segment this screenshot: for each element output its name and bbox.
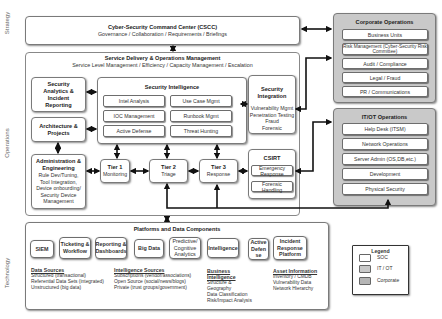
security-integration-title: Security Integration	[249, 86, 295, 100]
platform-big-data[interactable]: Big Data	[134, 239, 164, 258]
architecture-label: Architecture & Projects	[32, 123, 85, 137]
strategy-label: Strategy	[4, 0, 10, 53]
legend-swatch-corporate	[359, 277, 371, 285]
platform-incident-response[interactable]: Incident Response Platform	[273, 236, 307, 260]
platform-reporting[interactable]: Reporting & Dashboards	[95, 237, 127, 259]
tier-2-box[interactable]: Tier 2 Triage	[149, 159, 188, 183]
emergency-response[interactable]: Emergency Response	[251, 165, 293, 176]
tier-1-title: Tier 1	[108, 164, 123, 171]
corporate-operations-title: Corporate Operations	[334, 19, 435, 26]
threat-hunting[interactable]: Threat Hunting	[170, 125, 232, 137]
network-operations[interactable]: Network Operations	[342, 138, 428, 150]
vulnerability-mgmt: Vulnerability Mgmt	[249, 105, 295, 112]
help-desk[interactable]: Help Desk (ITSM)	[342, 123, 428, 135]
tier-1-sub: Monitoring	[103, 171, 127, 178]
info-heading: Business Intelligence	[207, 268, 255, 280]
risk-management[interactable]: Risk Management (Cyber-Security Risk Com…	[342, 43, 428, 55]
operations-label: Operations	[4, 113, 10, 173]
it-ot-operations-title: IT/OT Operations	[334, 114, 435, 121]
pr-communications[interactable]: PR / Communications	[342, 86, 428, 97]
security-integration-box[interactable]: Security Integration Vulnerability Mgmt …	[248, 75, 296, 134]
legend-swatch-it-ot	[359, 265, 371, 273]
audit-compliance[interactable]: Audit / Compliance	[342, 58, 428, 69]
platform-siem[interactable]: SIEM	[30, 240, 54, 258]
business-units[interactable]: Business Units	[342, 29, 428, 40]
forensic: Forensic	[249, 125, 295, 132]
tier-3-title: Tier 3	[211, 164, 226, 171]
info-business-intelligence: Business Intelligence Structure & Geogra…	[207, 268, 255, 304]
architecture-box[interactable]: Architecture & Projects	[31, 117, 86, 142]
admin-engineering-title: Administration & Engineering	[32, 158, 85, 172]
physical-security[interactable]: Physical Security	[342, 183, 428, 195]
sdom-title: Service Delivery & Operations Management	[25, 55, 300, 62]
info-line: Structure & Geography	[207, 280, 255, 292]
security-intelligence-title: Security Intelligence	[98, 84, 246, 91]
platform-ticketing[interactable]: Ticketing & Workflow	[59, 237, 91, 259]
platform-predictive[interactable]: Predictive/ Cognitive Analytics	[169, 237, 201, 259]
legend-label-it-ot: IT / OT	[377, 265, 392, 271]
fraud: Fraud	[249, 118, 295, 125]
info-line: Private (trust groups/government)	[114, 285, 191, 291]
penetration-testing: Penetration Testing	[249, 112, 295, 119]
server-admin[interactable]: Server Admin (OS,DB,etc.)	[342, 153, 428, 165]
legend-label-soc: SOC	[377, 254, 388, 260]
csirt-title: CSIRT	[249, 155, 295, 162]
tier-3-sub: Response	[207, 171, 230, 178]
platform-intelligence[interactable]: Intelligence	[207, 238, 239, 258]
development[interactable]: Development	[342, 168, 428, 180]
forensic-handling[interactable]: Forensic Handling	[251, 181, 293, 192]
sdom-header: Service Delivery & Operations Management…	[25, 55, 300, 69]
info-intelligence-sources: Intelligence Sources Subscriptions (vend…	[114, 267, 191, 291]
tier-3-box[interactable]: Tier 3 Response	[199, 159, 238, 183]
platform-active-defense[interactable]: Active Defen se	[248, 238, 269, 260]
active-defense[interactable]: Active Defense	[103, 125, 165, 137]
info-line: Unstructured (big data)	[31, 285, 104, 291]
info-data-sources: Data Sources Structured (transactional) …	[31, 267, 104, 291]
tier-2-sub: Triage	[161, 171, 176, 178]
security-analytics-box[interactable]: Security Analytics & Incident Reporting	[31, 77, 86, 112]
info-line: Network Hierarchy	[273, 286, 323, 292]
platforms-title: Platforms and Data Components	[26, 226, 328, 233]
cscc-subtitle: Governance / Collaboration / Requirement…	[98, 31, 227, 38]
cscc-title: Cyber-Security Command Center (CSCC)	[108, 24, 217, 31]
legend-swatch-soc	[359, 254, 371, 262]
tier-2-title: Tier 2	[161, 164, 176, 171]
technology-label: Technology	[4, 243, 10, 303]
intel-analysis[interactable]: Intel Analysis	[103, 95, 165, 107]
ioc-management[interactable]: IOC Management	[103, 110, 165, 122]
legend-label-corporate: Corporate	[377, 277, 399, 283]
info-line: Risk/Impact Analysis	[207, 298, 255, 304]
info-asset-information: Asset Information Inventory / CMDB Vulne…	[273, 268, 323, 292]
runbook-mgmt[interactable]: Runbook Mgmt	[170, 110, 232, 122]
arrow-to-itot	[296, 122, 331, 171]
legal-fraud[interactable]: Legal / Fraud	[342, 72, 428, 83]
admin-engineering-box[interactable]: Administration & Engineering Rule Dev/Tu…	[31, 154, 86, 209]
security-analytics-label: Security Analytics & Incident Reporting	[32, 81, 85, 109]
sdom-subtitle: Service Level Management / Efficiency / …	[25, 62, 300, 69]
arrow-to-corporate	[296, 58, 331, 109]
use-case-mgmt[interactable]: Use Case Mgmt	[170, 95, 232, 107]
cscc-box[interactable]: Cyber-Security Command Center (CSCC) Gov…	[25, 16, 300, 45]
tier-1-box[interactable]: Tier 1 Monitoring	[100, 159, 130, 183]
admin-engineering-body: Rule Dev/Tuning, Tool Integration, Devic…	[32, 172, 85, 205]
